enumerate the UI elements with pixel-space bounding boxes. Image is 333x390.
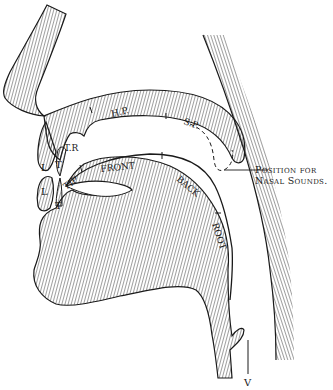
label-upper-lip: L <box>41 162 48 173</box>
label-vocal-cords: V <box>243 377 252 388</box>
label-nasal-line2: Nasal Sounds. <box>255 175 328 186</box>
vocal-tract-diagram: L L T T T.R H.P. S.P. TIP FRONT BACK ROO… <box>0 0 333 390</box>
label-teeth-ridge: T.R <box>64 143 79 153</box>
label-lower-teeth: T <box>55 200 62 211</box>
label-lower-lip: L <box>41 186 48 197</box>
nose-outline <box>4 5 66 116</box>
label-nasal-line1: Position for <box>255 164 317 175</box>
label-upper-teeth: T <box>55 159 62 170</box>
